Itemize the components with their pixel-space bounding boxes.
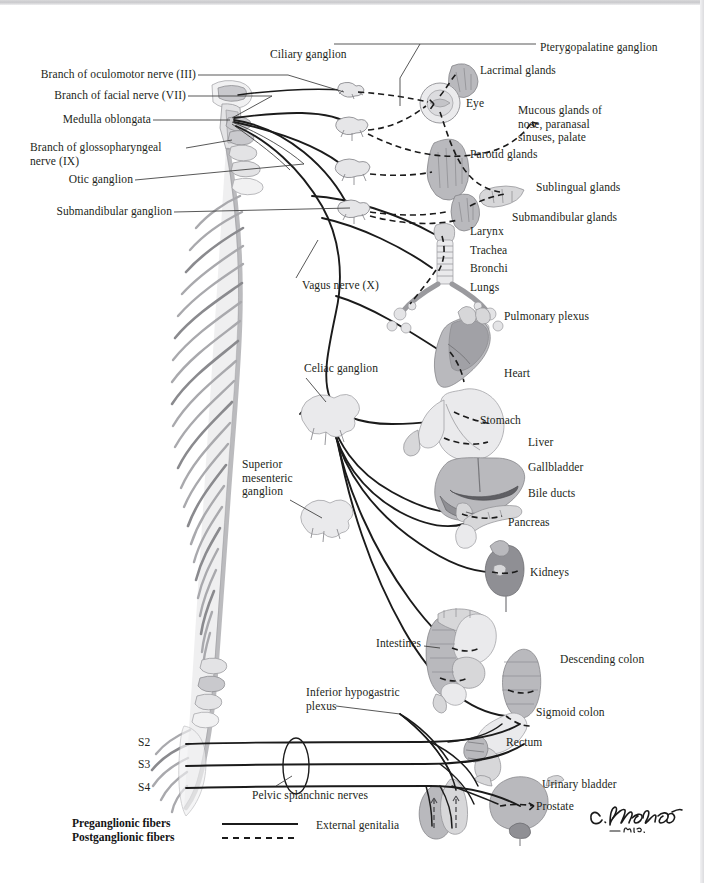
label-rectum: Rectum <box>506 736 542 750</box>
label-gallbladder: Gallbladder <box>528 461 583 475</box>
eye-organ <box>420 83 460 123</box>
label-submandibular-glands: Submandibular glands <box>512 211 617 225</box>
label-pulmonary-plexus: Pulmonary plexus <box>504 310 589 324</box>
parotid-gland-organ <box>427 139 469 200</box>
artist-signature <box>588 798 688 842</box>
label-larynx: Larynx <box>470 225 504 239</box>
label-urinary-bladder: Urinary bladder <box>542 778 617 792</box>
label-bronchi: Bronchi <box>470 262 508 276</box>
label-pancreas: Pancreas <box>508 516 550 530</box>
label-intestines: Intestines <box>376 637 421 651</box>
label-lacrimal-glands: Lacrimal glands <box>480 64 556 78</box>
intestines-organ <box>426 608 496 713</box>
cranial-ganglia <box>335 82 370 224</box>
label-pelvic-splanchnic-nerves: Pelvic splanchnic nerves <box>252 789 368 803</box>
label-facial-nerve: Branch of facial nerve (VII) <box>0 89 186 103</box>
legend-postganglionic-label: Postganglionic fibers <box>72 831 175 844</box>
descending-colon-organ <box>502 649 541 718</box>
legend-preganglionic-label: Preganglionic fibers <box>72 817 171 830</box>
label-celiac-ganglion: Celiac ganglion <box>304 362 378 376</box>
label-spinal-level-s3: S3 <box>138 758 150 770</box>
label-descending-colon: Descending colon <box>560 653 644 667</box>
label-submandibular-ganglion: Submandibular ganglion <box>0 205 172 219</box>
label-external-genitalia: External genitalia <box>316 819 399 833</box>
label-sigmoid-colon: Sigmoid colon <box>536 706 605 720</box>
label-eye: Eye <box>466 97 484 111</box>
label-liver: Liver <box>528 436 553 450</box>
heart-organ <box>434 306 490 387</box>
label-ciliary-ganglion: Ciliary ganglion <box>270 48 347 62</box>
legend-swatches <box>222 824 298 838</box>
label-bile-ducts: Bile ducts <box>528 487 575 501</box>
label-inferior-hypogastric-plexus: Inferior hypogastric plexus <box>306 686 400 713</box>
sacral-outflow <box>186 714 524 828</box>
label-heart: Heart <box>504 367 530 381</box>
label-trachea: Trachea <box>470 244 507 258</box>
label-medulla-oblongata: Medulla oblongata <box>0 113 151 127</box>
label-mucous-glands: Mucous glands of nose, paranasal sinuses… <box>518 104 602 145</box>
kidney-organ <box>485 540 524 612</box>
label-lungs: Lungs <box>470 281 499 295</box>
label-prostate: Prostate <box>536 800 574 814</box>
anatomical-figure: Ciliary ganglion Pterygopalatine ganglio… <box>0 0 704 883</box>
celiac-ganglion-shape <box>301 394 360 445</box>
label-vagus-nerve: Vagus nerve (X) <box>302 279 379 293</box>
label-stomach: Stomach <box>480 414 521 428</box>
label-kidneys: Kidneys <box>530 566 569 580</box>
vertebral-column <box>152 81 263 816</box>
label-parotid-glands: Parotid glands <box>470 148 538 162</box>
lumbar-sacrum <box>152 658 227 816</box>
label-sublingual-glands: Sublingual glands <box>536 181 620 195</box>
label-superior-mesenteric-ganglion: Superior mesenteric ganglion <box>242 458 293 499</box>
label-oculomotor-nerve: Branch of oculomotor nerve (III) <box>0 68 196 82</box>
label-spinal-level-s4: S4 <box>138 781 150 793</box>
superior-mesenteric-ganglion-shape <box>301 500 353 542</box>
label-spinal-level-s2: S2 <box>138 736 150 748</box>
label-glossopharyngeal-nerve: Branch of glossopharyngeal nerve (IX) <box>30 141 162 168</box>
label-otic-ganglion: Otic ganglion <box>0 173 133 187</box>
sublingual-gland-organ <box>480 186 525 207</box>
label-pterygopalatine-ganglion: Pterygopalatine ganglion <box>540 41 658 55</box>
